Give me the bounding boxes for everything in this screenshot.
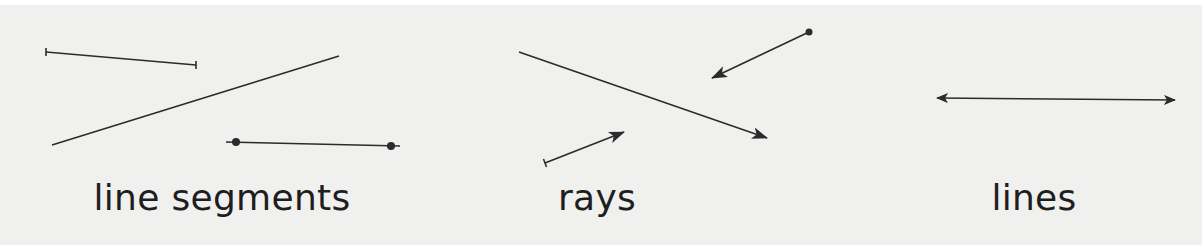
- ray-tick-origin: [544, 132, 625, 167]
- rays-group: [519, 29, 813, 168]
- ray-plain-origin: [519, 52, 767, 138]
- segment-plain: [52, 56, 339, 145]
- ray-dot-origin: [712, 29, 813, 79]
- segment-with-tick-ends: [46, 48, 196, 69]
- endpoint-dot-icon: [232, 138, 240, 146]
- segment-with-dot-ends: [226, 138, 400, 150]
- line-segments-group: [46, 48, 400, 150]
- endpoint-dot-icon: [806, 29, 813, 36]
- endpoint-dot-icon: [387, 142, 395, 150]
- line-double-arrow: [937, 98, 1175, 100]
- label-rays: rays: [558, 177, 636, 218]
- label-lines: lines: [991, 177, 1076, 218]
- label-line-segments: line segments: [94, 177, 351, 218]
- lines-group: [937, 98, 1175, 100]
